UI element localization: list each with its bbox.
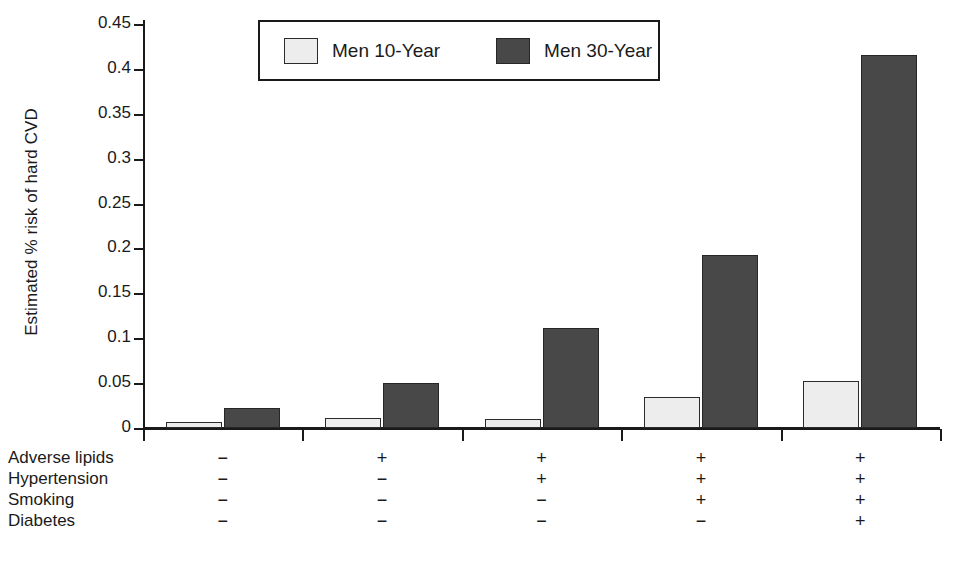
bar-men-30-year-group-4 <box>702 255 758 428</box>
risk-factor-label: Diabetes <box>8 511 75 531</box>
bar-men-30-year-group-5 <box>861 55 917 428</box>
risk-factor-cell: − <box>367 511 397 532</box>
x-axis-tick <box>462 429 464 441</box>
risk-factor-row: Hypertension−−+++ <box>0 469 957 490</box>
bar-men-10-year-group-1 <box>166 422 222 428</box>
y-axis-tick-mark <box>134 248 143 250</box>
risk-factor-cell: + <box>367 448 397 469</box>
y-axis-tick-label: 0 <box>122 417 131 437</box>
y-axis-tick-label: 0.25 <box>98 193 131 213</box>
bar-men-10-year-group-5 <box>803 381 859 428</box>
bar-men-10-year-group-2 <box>325 418 381 428</box>
bar-men-30-year-group-3 <box>543 328 599 428</box>
bar-men-30-year-group-1 <box>224 408 280 428</box>
bar-men-10-year-group-3 <box>485 419 541 428</box>
y-axis-tick-label: 0.05 <box>98 372 131 392</box>
plot-area: 00.050.10.150.20.250.30.350.40.45 <box>143 24 940 428</box>
risk-factor-cell: − <box>367 469 397 490</box>
risk-factor-cell: + <box>527 469 557 490</box>
risk-factor-row: Diabetes−−−−+ <box>0 511 957 532</box>
y-axis-tick-mark <box>134 293 143 295</box>
legend-item-men-30-year: Men 30-Year <box>496 38 652 64</box>
y-axis-tick-label: 0.35 <box>98 103 131 123</box>
y-axis-label: Estimated % risk of hard CVD <box>22 72 42 372</box>
x-axis-tick <box>781 429 783 441</box>
y-axis-tick-mark <box>134 338 143 340</box>
risk-factor-cell: + <box>686 469 716 490</box>
chart-figure: Estimated % risk of hard CVD 00.050.10.1… <box>0 0 957 569</box>
risk-factor-cell: + <box>527 448 557 469</box>
risk-factor-matrix: Adverse lipids−++++Hypertension−−+++Smok… <box>0 448 957 532</box>
risk-factor-cell: − <box>367 490 397 511</box>
y-axis-tick-mark <box>134 204 143 206</box>
risk-factor-cell: − <box>208 448 238 469</box>
y-axis-tick-mark <box>134 114 143 116</box>
risk-factor-cell: + <box>845 469 875 490</box>
y-axis-tick-mark <box>134 383 143 385</box>
legend-item-men-10-year: Men 10-Year <box>284 38 440 64</box>
legend-swatch-icon <box>496 38 530 64</box>
risk-factor-cell: − <box>686 511 716 532</box>
legend-label: Men 10-Year <box>332 40 440 62</box>
risk-factor-cell: + <box>845 448 875 469</box>
y-axis-tick-mark <box>134 428 143 430</box>
risk-factor-label: Hypertension <box>8 469 108 489</box>
legend: Men 10-Year Men 30-Year <box>258 20 660 81</box>
risk-factor-cell: + <box>845 490 875 511</box>
legend-label: Men 30-Year <box>544 40 652 62</box>
y-axis-tick-label: 0.4 <box>107 58 131 78</box>
y-axis-tick-label: 0.15 <box>98 282 131 302</box>
risk-factor-cell: + <box>845 511 875 532</box>
risk-factor-cell: + <box>686 490 716 511</box>
bar-men-10-year-group-4 <box>644 397 700 428</box>
x-axis-tick <box>621 429 623 441</box>
risk-factor-row: Adverse lipids−++++ <box>0 448 957 469</box>
legend-swatch-icon <box>284 38 318 64</box>
y-axis-tick-mark <box>134 24 143 26</box>
risk-factor-cell: − <box>208 511 238 532</box>
x-axis-tick <box>143 429 145 441</box>
risk-factor-cell: + <box>686 448 716 469</box>
risk-factor-cell: − <box>208 490 238 511</box>
risk-factor-row: Smoking−−−++ <box>0 490 957 511</box>
risk-factor-cell: − <box>527 490 557 511</box>
x-axis-tick <box>940 429 942 441</box>
risk-factor-label: Adverse lipids <box>8 448 114 468</box>
risk-factor-label: Smoking <box>8 490 74 510</box>
y-axis-tick-label: 0.45 <box>98 13 131 33</box>
y-axis-tick-mark <box>134 69 143 71</box>
y-axis-tick-mark <box>134 159 143 161</box>
y-axis-tick-label: 0.3 <box>107 148 131 168</box>
y-axis-tick-label: 0.2 <box>107 237 131 257</box>
risk-factor-cell: − <box>208 469 238 490</box>
risk-factor-cell: − <box>527 511 557 532</box>
bar-men-30-year-group-2 <box>383 383 439 428</box>
y-axis-tick-label: 0.1 <box>107 327 131 347</box>
x-axis-tick <box>302 429 304 441</box>
